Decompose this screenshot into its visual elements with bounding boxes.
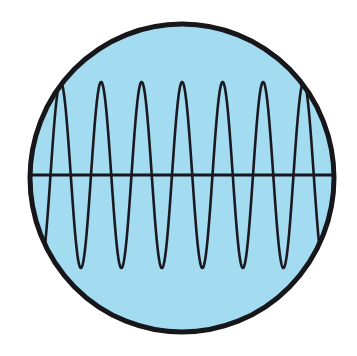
oscilloscope-figure (0, 0, 357, 356)
figure-root (0, 0, 357, 356)
